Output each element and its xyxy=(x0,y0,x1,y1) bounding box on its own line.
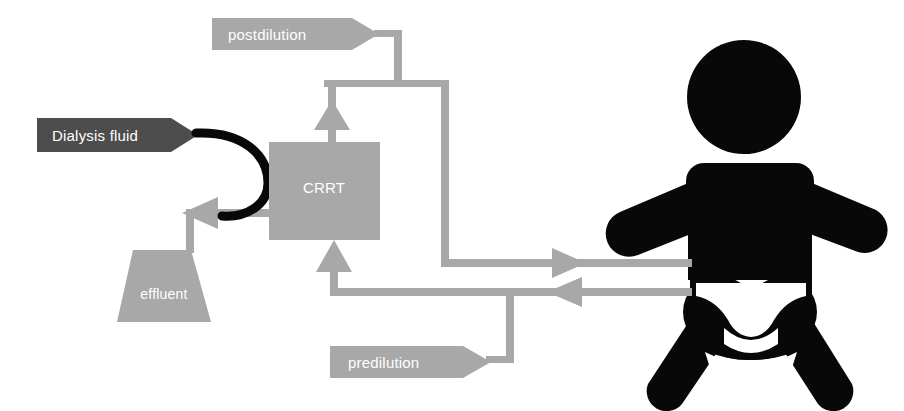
connector-patient-to-crrt-outflow xyxy=(330,277,692,358)
crrt-label: CRRT xyxy=(303,179,345,196)
crrt-circuit-diagram: postdilution Dialysis fluid CRRT effluen… xyxy=(0,0,904,411)
connector-postdilution-to-return-line xyxy=(374,30,402,87)
flow-lines xyxy=(182,30,692,363)
node-postdilution[interactable]: postdilution xyxy=(212,18,379,50)
connector-return-line-header xyxy=(324,80,449,87)
predilution-label: predilution xyxy=(348,354,419,371)
node-patient[interactable] xyxy=(606,40,888,411)
patient-head xyxy=(687,40,801,154)
effluent-label: effluent xyxy=(140,286,187,302)
node-dialysis-fluid[interactable]: Dialysis fluid xyxy=(37,118,198,152)
node-crrt[interactable]: CRRT xyxy=(269,142,380,240)
diagram-canvas: postdilution Dialysis fluid CRRT effluen… xyxy=(0,0,904,411)
node-effluent[interactable]: effluent xyxy=(117,250,211,322)
connector-return-line-to-crrt-top xyxy=(314,80,350,146)
postdilution-label: postdilution xyxy=(228,26,306,43)
node-predilution[interactable]: predilution xyxy=(330,346,491,378)
connector-access-line-to-crrt-bottom xyxy=(316,240,352,294)
dialysis-fluid-label: Dialysis fluid xyxy=(52,127,138,144)
patient-shoulders xyxy=(686,163,814,203)
